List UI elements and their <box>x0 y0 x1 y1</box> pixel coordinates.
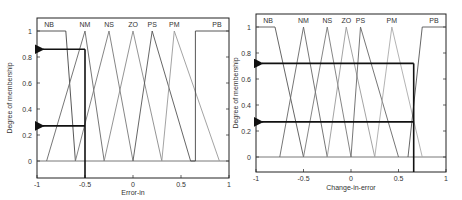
set-label-zo: ZO <box>128 21 138 28</box>
y-tick-label: 0.2 <box>22 132 32 139</box>
y-tick-label: 0.6 <box>22 80 32 87</box>
set-label-nm: NM <box>298 17 309 24</box>
set-label-ns: NS <box>104 21 114 28</box>
y-tick-label: 0 <box>247 154 251 161</box>
set-label-ns: NS <box>322 17 332 24</box>
membership-nb <box>37 31 75 161</box>
set-label-nb: NB <box>263 17 273 24</box>
membership-nm <box>280 27 328 157</box>
change-in-error-chart: -1-0.500.5100.20.40.60.81NBNMNSZOPSPMPBC… <box>232 14 448 192</box>
error-in-chart: -1-0.500.5100.20.40.60.81NBNMNSZOPSPMPBE… <box>6 18 231 196</box>
x-tick-label: -0.5 <box>297 175 309 182</box>
x-tick-label: 0.5 <box>394 175 404 182</box>
membership-zo <box>327 27 375 157</box>
x-tick-label: 1 <box>444 175 448 182</box>
membership-ns <box>75 31 133 161</box>
y-tick-label: 0 <box>28 158 32 165</box>
x-tick-label: 0 <box>131 181 135 188</box>
y-tick-label: 1 <box>28 28 32 35</box>
x-tick-label: 0.5 <box>176 181 186 188</box>
set-label-ps: PS <box>148 21 158 28</box>
y-axis-label: Degree of membership <box>232 57 240 128</box>
membership-nb <box>256 27 304 157</box>
y-tick-label: 0.6 <box>241 76 251 83</box>
x-tick-label: 0 <box>349 175 353 182</box>
membership-ps <box>133 31 191 161</box>
membership-pm <box>162 31 220 161</box>
set-label-pb: PB <box>429 17 439 24</box>
membership-ns <box>304 27 352 157</box>
y-tick-label: 0.2 <box>241 128 251 135</box>
membership-pb <box>191 31 229 161</box>
y-tick-label: 0.4 <box>22 106 32 113</box>
set-label-nm: NM <box>80 21 91 28</box>
plot-frame <box>256 14 446 172</box>
y-axis-label: Degree of membership <box>6 62 14 133</box>
set-label-pb: PB <box>212 21 222 28</box>
membership-charts: -1-0.500.5100.20.40.60.81NBNMNSZOPSPMPBE… <box>0 0 462 200</box>
x-tick-label: -0.5 <box>79 181 91 188</box>
membership-nm <box>47 31 105 161</box>
set-label-nb: NB <box>44 21 54 28</box>
x-tick-label: -1 <box>253 175 259 182</box>
y-tick-label: 1 <box>247 24 251 31</box>
set-label-zo: ZO <box>341 17 351 24</box>
set-label-pm: PM <box>387 17 398 24</box>
membership-ps <box>351 27 399 157</box>
x-tick-label: -1 <box>34 181 40 188</box>
set-label-pm: PM <box>169 21 180 28</box>
y-tick-label: 0.4 <box>241 102 251 109</box>
set-label-ps: PS <box>356 17 366 24</box>
plot-frame <box>37 18 229 178</box>
x-tick-label: 1 <box>227 181 231 188</box>
x-axis-label: Error-in <box>121 189 144 196</box>
y-tick-label: 0.8 <box>241 50 251 57</box>
y-tick-label: 0.8 <box>22 54 32 61</box>
x-axis-label: Change-in-error <box>326 184 376 192</box>
